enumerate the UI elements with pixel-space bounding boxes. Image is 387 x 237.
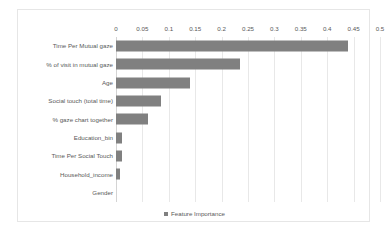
chart-container: 00.050.10.150.20.250.30.350.40.450.5 Tim… — [17, 9, 370, 222]
legend-label: Feature Importance — [171, 210, 225, 218]
category-label: Age — [38, 79, 113, 87]
bar-row — [116, 147, 380, 165]
bar-row — [116, 184, 380, 202]
bar-row — [116, 165, 380, 183]
bar-row — [116, 55, 380, 73]
bar — [116, 96, 161, 107]
legend-marker-icon — [164, 212, 168, 216]
bar — [116, 169, 120, 180]
x-tick-label: 0.05 — [136, 23, 148, 35]
category-label: Time Per Mutual gaze — [38, 42, 113, 50]
bar — [116, 41, 348, 52]
chart-legend: Feature Importance — [18, 210, 371, 218]
category-label: Social touch (total time) — [38, 97, 113, 105]
x-axis-tick-labels: 00.050.10.150.20.250.30.350.40.450.5 — [116, 23, 380, 35]
bar — [116, 132, 122, 143]
category-label: % gaze chart together — [38, 116, 113, 124]
x-tick-label: 0.4 — [323, 23, 332, 35]
bar-row — [116, 92, 380, 110]
category-label: Household_income — [38, 171, 113, 179]
gridline — [380, 37, 381, 202]
bar — [116, 114, 148, 125]
category-label: Education_bin — [38, 134, 113, 142]
x-tick-label: 0.1 — [164, 23, 173, 35]
x-tick-label: 0.45 — [348, 23, 360, 35]
bar — [116, 77, 190, 88]
bar-row — [116, 37, 380, 55]
x-tick-label: 0.15 — [189, 23, 201, 35]
bar-row — [116, 129, 380, 147]
category-label: Gender — [38, 189, 113, 197]
category-label: % of visit in mutual gaze — [38, 61, 113, 69]
x-tick-label: 0.5 — [376, 23, 385, 35]
bar-row — [116, 110, 380, 128]
category-axis-labels: Time Per Mutual gaze% of visit in mutual… — [38, 37, 113, 202]
x-tick-label: 0 — [114, 23, 117, 35]
x-tick-label: 0.35 — [295, 23, 307, 35]
x-tick-label: 0.2 — [217, 23, 226, 35]
bar — [116, 59, 240, 70]
plot-area — [116, 37, 380, 202]
x-tick-label: 0.25 — [242, 23, 254, 35]
bar-row — [116, 74, 380, 92]
x-tick-label: 0.3 — [270, 23, 279, 35]
category-label: Time Per Social Touch — [38, 152, 113, 160]
bar — [116, 151, 122, 162]
